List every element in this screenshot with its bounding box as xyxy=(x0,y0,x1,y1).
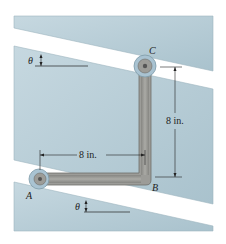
upper-theta-label: θ xyxy=(28,55,33,66)
point-b-label: B xyxy=(152,182,158,193)
collar-c xyxy=(134,55,156,77)
point-a-label: A xyxy=(25,190,33,201)
collar-a xyxy=(29,169,49,189)
vertical-dimension-label: 8 in. xyxy=(166,115,184,126)
horizontal-dimension-label: 8 in. xyxy=(79,149,97,160)
diagram-canvas: θ θ C A B 8 in. xyxy=(0,0,226,244)
lower-theta-label: θ xyxy=(75,201,80,212)
point-c-label: C xyxy=(149,45,156,56)
